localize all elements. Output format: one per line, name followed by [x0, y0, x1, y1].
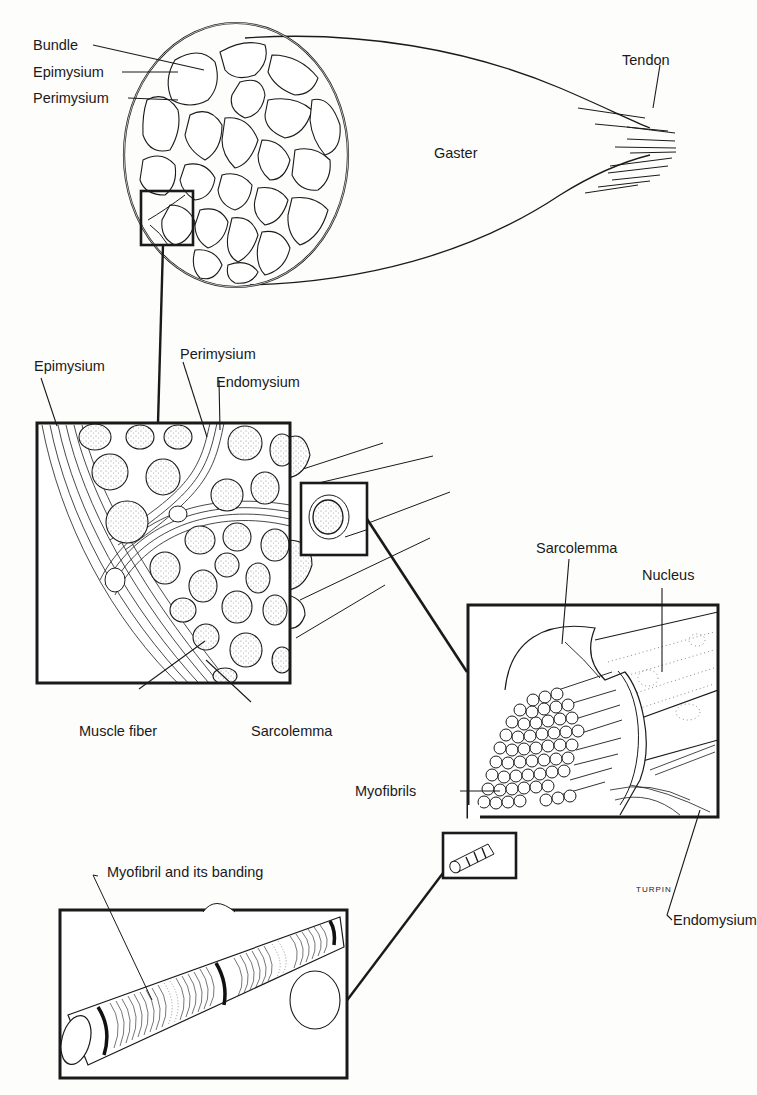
label-nucleus: Nucleus — [642, 568, 694, 583]
gross-muscle-panel — [93, 23, 676, 423]
label-myofibril-banding: Myofibril and its banding — [107, 865, 263, 880]
label-myofibrils: Myofibrils — [355, 784, 416, 799]
label-tendon: Tendon — [622, 53, 670, 68]
label-perimysium-detail: Perimysium — [180, 347, 256, 362]
label-sarcolemma-detail: Sarcolemma — [251, 724, 332, 739]
label-epimysium-detail: Epimysium — [34, 359, 105, 374]
label-gaster: Gaster — [434, 146, 478, 161]
label-sarcolemma-fiber: Sarcolemma — [536, 541, 617, 556]
label-epimysium-gross: Epimysium — [33, 65, 104, 80]
label-muscle-fiber: Muscle fiber — [79, 724, 157, 739]
tendon-fibers — [578, 108, 676, 193]
label-bundle: Bundle — [33, 38, 78, 53]
label-endomysium-detail: Endomysium — [216, 375, 300, 390]
label-perimysium-gross: Perimysium — [33, 91, 109, 106]
label-endomysium-fiber: Endomysium — [673, 913, 757, 928]
myofibril-detail-panel — [56, 875, 347, 1078]
fiber-detail-panel — [345, 559, 718, 1003]
artist-signature: TURPIN — [636, 885, 672, 894]
bundle-detail-panel — [37, 362, 467, 702]
muscle-bundles — [140, 43, 340, 284]
